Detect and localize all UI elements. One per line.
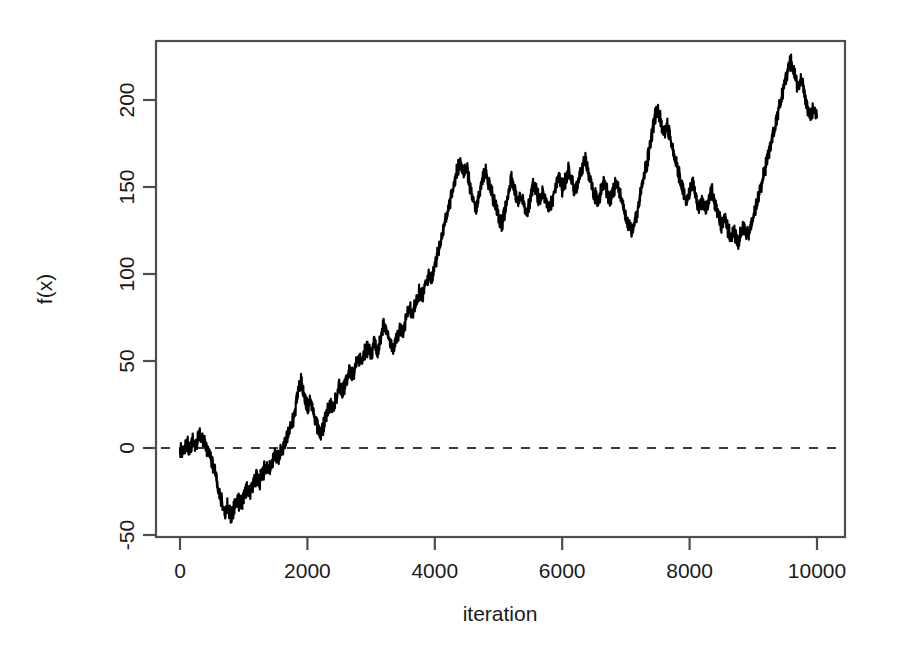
x-axis-tick-label: 8000 <box>666 559 713 582</box>
y-axis-tick-label: 150 <box>115 169 138 204</box>
x-axis-tick-label: 10000 <box>788 559 846 582</box>
x-axis-title: iteration <box>463 602 538 625</box>
trace-plot-svg: -50050100150200 0200040006000800010000 i… <box>0 0 897 661</box>
x-axis-tick-label: 2000 <box>284 559 331 582</box>
y-axis-tick-label: 50 <box>115 349 138 372</box>
y-axis-tick-label: -50 <box>115 520 138 550</box>
y-axis-tick-label: 200 <box>115 82 138 117</box>
x-axis-tick-label: 4000 <box>411 559 458 582</box>
chart-figure: -50050100150200 0200040006000800010000 i… <box>0 0 897 661</box>
plot-panel-border <box>156 41 845 537</box>
x-axis-ticks <box>180 537 817 550</box>
x-axis-tick-labels: 0200040006000800010000 <box>174 559 846 582</box>
y-axis-tick-label: 0 <box>115 442 138 454</box>
y-axis-ticks <box>143 100 156 535</box>
data-series-line <box>180 54 817 522</box>
y-axis-tick-labels: -50050100150200 <box>115 82 138 550</box>
x-axis-tick-label: 0 <box>174 559 186 582</box>
y-axis-title: f(x) <box>33 274 56 304</box>
x-axis-tick-label: 6000 <box>539 559 586 582</box>
y-axis-tick-label: 100 <box>115 256 138 291</box>
